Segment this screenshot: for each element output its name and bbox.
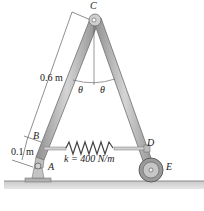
label-dimension-ab: 0.1 m xyxy=(11,147,34,157)
label-point-c: C xyxy=(90,1,97,11)
wheel-e xyxy=(139,158,163,182)
label-theta-left: θ xyxy=(78,85,83,95)
label-point-b: B xyxy=(33,131,39,141)
member-ac xyxy=(34,19,98,169)
mechanism-diagram xyxy=(0,0,204,211)
label-theta-right: θ xyxy=(100,85,105,95)
pin-c xyxy=(89,14,101,26)
label-point-a: A xyxy=(48,162,54,172)
label-point-e: E xyxy=(166,162,172,172)
label-point-d: D xyxy=(147,138,154,148)
pin-a-icon xyxy=(35,163,41,169)
label-dimension-bc: 0.6 m xyxy=(40,73,63,83)
label-spring-constant: k = 400 N/m xyxy=(64,154,114,164)
